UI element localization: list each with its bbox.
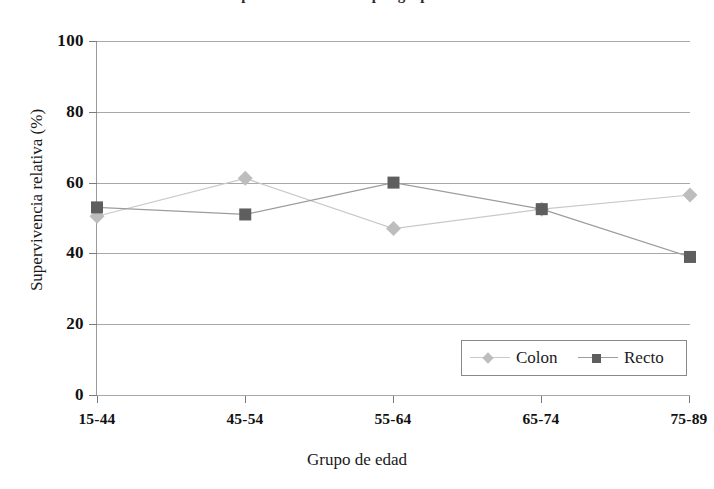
legend-entry-colon[interactable]: Colon (470, 341, 558, 375)
legend-swatch-recto (578, 351, 618, 365)
diamond-marker-icon (482, 352, 493, 363)
data-point-diamond[interactable] (683, 187, 698, 202)
legend-entry-recto[interactable]: Recto (578, 341, 664, 375)
legend-label-colon: Colon (516, 348, 558, 368)
data-point-square[interactable] (91, 201, 103, 213)
data-point-square[interactable] (536, 203, 548, 215)
series-recto (91, 177, 696, 263)
legend-label-recto: Recto (624, 348, 664, 368)
data-series-layer (0, 0, 714, 489)
square-marker-icon (592, 354, 601, 363)
data-point-square[interactable] (684, 251, 696, 263)
data-point-square[interactable] (239, 208, 251, 220)
data-point-diamond[interactable] (238, 171, 253, 186)
chart-figure: Supervivencia relativa por grupo de edad… (0, 0, 714, 489)
data-point-diamond[interactable] (386, 221, 401, 236)
data-point-square[interactable] (388, 177, 400, 189)
chart-legend: Colon Recto (461, 340, 687, 376)
legend-swatch-colon (470, 351, 510, 365)
